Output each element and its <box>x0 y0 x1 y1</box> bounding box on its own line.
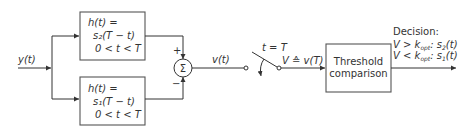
decision-rule-2: V < kopt: s1(t) <box>393 50 458 63</box>
threshold-line2: comparison <box>329 68 387 79</box>
minus-sign: − <box>172 78 180 89</box>
matched-filter-s2: h(t) = s₂(T − t) 0 < t < T <box>80 12 145 60</box>
filter-s2-line1: h(t) = <box>88 17 118 28</box>
decision-title: Decision: <box>393 26 439 37</box>
filter-s1-line3: 0 < t < T <box>95 109 142 120</box>
sigma-symbol: Σ <box>180 63 186 74</box>
matched-filter-receiver-diagram: y(t) h(t) = s₂(T − t) 0 < t < T h(t) = s… <box>0 0 472 139</box>
vt-label: v(t) <box>212 54 230 65</box>
switch-input-terminal <box>244 66 248 70</box>
threshold-line1: Threshold <box>333 56 383 67</box>
threshold-comparison-block: Threshold comparison <box>326 44 391 92</box>
filter-s1-line1: h(t) = <box>88 83 118 94</box>
filter-s2-line3: 0 < t < T <box>95 43 142 54</box>
sample-label: V ≙ v(T) <box>282 55 323 66</box>
filter-s2-line2: s₂(T − t) <box>93 30 135 41</box>
input-label: y(t) <box>17 54 36 65</box>
switch-arrow-icon <box>260 59 264 76</box>
switch-label: t = T <box>262 42 288 53</box>
plus-sign: + <box>173 45 181 56</box>
summing-junction: Σ <box>174 59 192 77</box>
matched-filter-s1: h(t) = s₁(T − t) 0 < t < T <box>80 77 145 125</box>
filter-s1-line2: s₁(T − t) <box>93 96 135 107</box>
